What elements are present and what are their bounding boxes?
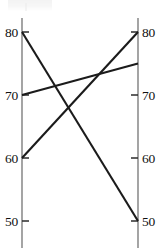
left-axis-tick-label: 80 [5, 25, 19, 40]
right-axis-tick-label: 70 [142, 88, 156, 103]
left-axis-tick-label: 70 [5, 88, 19, 103]
right-axis-tick-labels: 80706050 [142, 25, 156, 229]
slope-line [22, 32, 138, 221]
left-axis-tick-label: 50 [5, 214, 19, 229]
left-axis-ticks [22, 32, 29, 221]
slope-lines-group [22, 32, 138, 221]
slope-line [22, 32, 138, 158]
right-axis-tick-label: 60 [142, 151, 156, 166]
chart-canvas: 80706050 80706050 [0, 0, 159, 248]
right-axis-tick-label: 50 [142, 214, 156, 229]
right-axis-ticks [131, 32, 138, 221]
axes-group [22, 18, 138, 248]
slope-line [22, 64, 138, 96]
left-axis-tick-label: 60 [5, 151, 19, 166]
slope-chart: 80706050 80706050 [0, 0, 159, 248]
left-axis-tick-labels: 80706050 [5, 25, 19, 229]
right-axis-tick-label: 80 [142, 25, 156, 40]
